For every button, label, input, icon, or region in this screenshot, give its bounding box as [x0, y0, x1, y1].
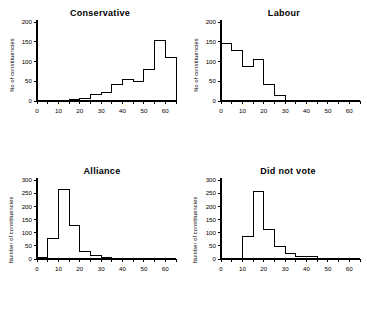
chart-svg-did-not-vote: Did not vote Number of constituencies 05…	[184, 158, 367, 318]
y-axis-label: Number of constituencies	[192, 197, 198, 264]
chart-panel-conservative: Conservative No of constituencies 050100…	[0, 0, 183, 160]
x-tick-label: 0	[219, 265, 223, 272]
chart-title: Conservative	[70, 8, 130, 18]
y-axis-label: Number of constituencies	[8, 197, 14, 264]
x-tick-label: 0	[35, 107, 39, 114]
y-tick-label: 150	[206, 38, 217, 45]
y-tick-label: 100	[22, 58, 33, 65]
y-tick-label: 200	[206, 203, 217, 210]
x-tick-label: 60	[162, 107, 169, 114]
y-tick-label: 50	[209, 77, 216, 84]
chart-title: Did not vote	[260, 166, 316, 176]
histogram-figure: Conservative No of constituencies 050100…	[0, 0, 367, 320]
y-tick-label: 100	[206, 229, 217, 236]
y-tick-label: 300	[206, 176, 217, 183]
x-tick-label: 40	[303, 265, 310, 272]
y-tick-label: 150	[22, 38, 33, 45]
x-tick-label: 40	[119, 107, 126, 114]
y-tick-label: 250	[206, 189, 217, 196]
y-tick-label: 200	[206, 18, 217, 25]
x-tick-label: 30	[282, 265, 289, 272]
x-tick-label: 30	[98, 265, 105, 272]
x-tick-label: 10	[239, 107, 246, 114]
x-tick-label: 50	[140, 265, 147, 272]
y-tick-label: 0	[213, 97, 217, 104]
chart-panel-labour: Labour No of constituencies 050100150200…	[184, 0, 367, 160]
x-tick-label: 30	[282, 107, 289, 114]
x-tick-label: 50	[140, 107, 147, 114]
chart-svg-labour: Labour No of constituencies 050100150200…	[184, 0, 367, 160]
y-tick-label: 100	[22, 229, 33, 236]
y-tick-label: 150	[206, 216, 217, 223]
chart-panel-did-not-vote: Did not vote Number of constituencies 05…	[184, 158, 367, 318]
x-tick-label: 20	[76, 107, 83, 114]
y-tick-label: 0	[29, 97, 33, 104]
y-tick-label: 50	[209, 242, 216, 249]
y-tick-label: 50	[25, 242, 32, 249]
x-tick-label: 60	[162, 265, 169, 272]
x-tick-label: 20	[260, 265, 267, 272]
histogram-bars	[37, 189, 176, 259]
plot-area: 0501001502000102030405060	[206, 18, 360, 113]
x-tick-label: 40	[303, 107, 310, 114]
histogram-bars	[37, 41, 176, 101]
y-axis-label: No of constituencies	[9, 38, 15, 91]
x-tick-label: 50	[324, 107, 331, 114]
y-tick-label: 300	[22, 176, 33, 183]
x-tick-label: 30	[98, 107, 105, 114]
y-tick-label: 100	[206, 58, 217, 65]
x-tick-label: 20	[260, 107, 267, 114]
y-axis-label: No of constituencies	[193, 38, 199, 91]
x-tick-label: 60	[346, 265, 353, 272]
x-tick-label: 60	[346, 107, 353, 114]
x-tick-label: 50	[324, 265, 331, 272]
plot-area: 0501001502000102030405060	[22, 18, 176, 113]
chart-svg-alliance: Alliance Number of constituencies 050100…	[0, 158, 183, 318]
y-tick-label: 200	[22, 18, 33, 25]
x-tick-label: 10	[239, 265, 246, 272]
y-tick-label: 150	[22, 216, 33, 223]
plot-area: 0501001502002503000102030405060	[22, 176, 176, 271]
y-tick-label: 0	[29, 255, 33, 262]
x-tick-label: 0	[35, 265, 39, 272]
x-tick-label: 10	[55, 107, 62, 114]
y-tick-label: 0	[213, 255, 217, 262]
histogram-bars	[221, 191, 360, 259]
chart-title: Alliance	[84, 166, 121, 176]
y-tick-label: 50	[25, 77, 32, 84]
x-tick-label: 10	[55, 265, 62, 272]
chart-svg-conservative: Conservative No of constituencies 050100…	[0, 0, 183, 160]
x-tick-label: 40	[119, 265, 126, 272]
chart-panel-alliance: Alliance Number of constituencies 050100…	[0, 158, 183, 318]
x-tick-label: 0	[219, 107, 223, 114]
chart-title: Labour	[268, 8, 300, 18]
y-tick-label: 250	[22, 189, 33, 196]
y-tick-label: 200	[22, 203, 33, 210]
x-tick-label: 20	[76, 265, 83, 272]
plot-area: 0501001502002503000102030405060	[206, 176, 360, 271]
histogram-bars	[221, 43, 360, 101]
